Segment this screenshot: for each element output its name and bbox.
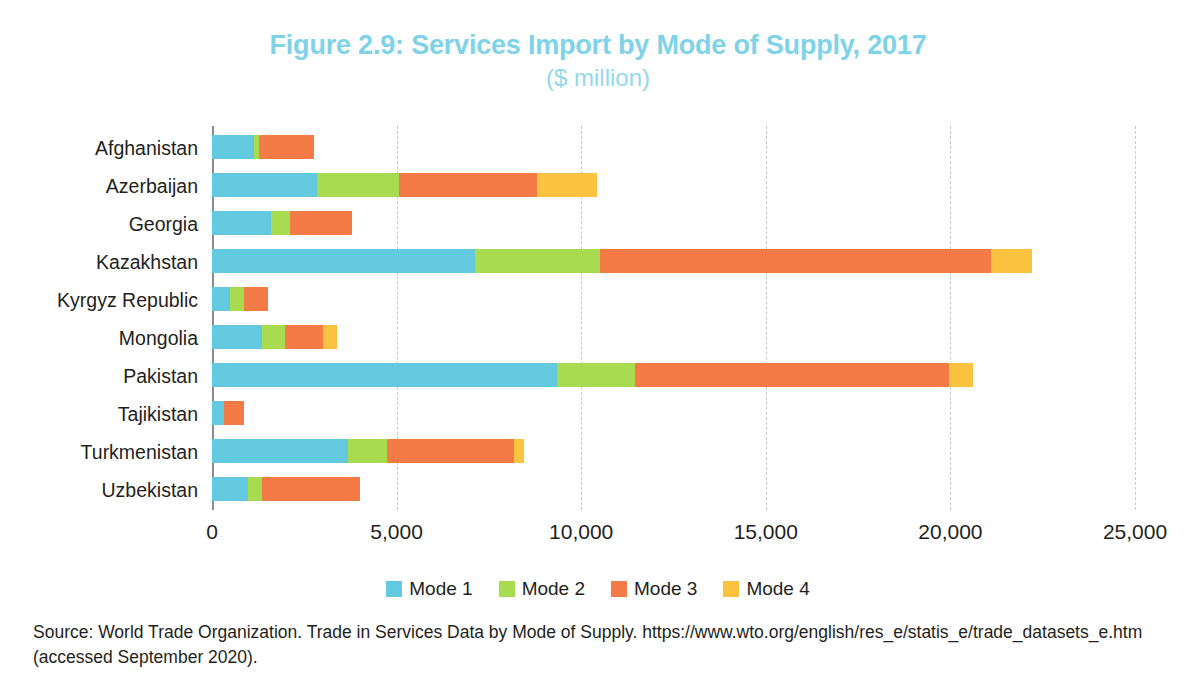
category-axis-labels: AfghanistanAzerbaijanGeorgiaKazakhstanKy… — [0, 126, 206, 510]
legend-item[interactable]: Mode 1 — [386, 578, 472, 600]
title-block: Figure 2.9: Services Import by Mode of S… — [0, 30, 1196, 93]
legend-swatch-icon — [723, 581, 739, 597]
category-label: Turkmenistan — [0, 443, 198, 463]
bar-segment — [475, 249, 600, 273]
bar-segment — [212, 211, 271, 235]
bar-segment — [537, 173, 597, 197]
bar-segment — [949, 363, 973, 387]
bar-segment — [212, 173, 317, 197]
bar-row — [212, 325, 337, 349]
value-tick-label: 0 — [206, 520, 218, 544]
category-label: Kyrgyz Republic — [0, 291, 198, 311]
bar-segment — [262, 477, 360, 501]
bar-segment — [557, 363, 635, 387]
value-tick-label: 20,000 — [918, 520, 982, 544]
bar-row — [212, 287, 268, 311]
category-label: Azerbaijan — [0, 177, 198, 197]
bar-row — [212, 401, 244, 425]
bar-segment — [635, 363, 949, 387]
legend-item[interactable]: Mode 2 — [499, 578, 585, 600]
category-label: Mongolia — [0, 329, 198, 349]
bars-group — [212, 126, 1196, 510]
bar-segment — [348, 439, 387, 463]
bar-segment — [323, 325, 337, 349]
value-tick-label: 5,000 — [370, 520, 423, 544]
bar-row — [212, 477, 360, 501]
bar-segment — [991, 249, 1032, 273]
source-note: Source: World Trade Organization. Trade … — [33, 620, 1173, 671]
category-label: Kazakhstan — [0, 253, 198, 273]
bar-segment — [317, 173, 399, 197]
legend-label: Mode 1 — [409, 578, 472, 600]
bar-segment — [271, 211, 290, 235]
category-label: Tajikistan — [0, 405, 198, 425]
legend-label: Mode 4 — [746, 578, 809, 600]
bar-segment — [399, 173, 537, 197]
bar-segment — [285, 325, 323, 349]
bar-row — [212, 211, 352, 235]
bar-row — [212, 249, 1032, 273]
legend-item[interactable]: Mode 4 — [723, 578, 809, 600]
bar-segment — [212, 477, 248, 501]
category-label: Uzbekistan — [0, 481, 198, 501]
category-label: Pakistan — [0, 367, 198, 387]
value-tick-label: 25,000 — [1103, 520, 1167, 544]
bar-segment — [212, 401, 224, 425]
bar-segment — [262, 325, 285, 349]
figure-subtitle: ($ million) — [0, 64, 1196, 93]
value-tick-label: 10,000 — [549, 520, 613, 544]
legend-swatch-icon — [499, 581, 515, 597]
bar-segment — [387, 439, 514, 463]
bar-segment — [230, 287, 244, 311]
bar-segment — [224, 401, 244, 425]
category-label: Georgia — [0, 215, 198, 235]
bar-segment — [290, 211, 352, 235]
legend-swatch-icon — [611, 581, 627, 597]
bar-row — [212, 363, 973, 387]
bar-segment — [212, 287, 230, 311]
figure-container: Figure 2.9: Services Import by Mode of S… — [0, 0, 1196, 689]
bar-segment — [212, 325, 262, 349]
bar-row — [212, 439, 524, 463]
bar-segment — [514, 439, 524, 463]
value-tick-label: 15,000 — [734, 520, 798, 544]
bar-segment — [259, 135, 314, 159]
bar-row — [212, 173, 597, 197]
figure-title: Figure 2.9: Services Import by Mode of S… — [0, 30, 1196, 62]
bar-segment — [212, 249, 475, 273]
legend-swatch-icon — [386, 581, 402, 597]
category-label: Afghanistan — [0, 139, 198, 159]
bar-segment — [600, 249, 991, 273]
plot-area: AfghanistanAzerbaijanGeorgiaKazakhstanKy… — [0, 126, 1196, 526]
legend-label: Mode 2 — [522, 578, 585, 600]
bar-segment — [212, 135, 254, 159]
value-axis-tick-labels: 05,00010,00015,00020,00025,000 — [0, 520, 1196, 550]
bar-segment — [212, 363, 557, 387]
legend-item[interactable]: Mode 3 — [611, 578, 697, 600]
chart-legend: Mode 1Mode 2Mode 3Mode 4 — [0, 578, 1196, 600]
bar-segment — [248, 477, 262, 501]
bar-segment — [212, 439, 348, 463]
legend-label: Mode 3 — [634, 578, 697, 600]
bar-segment — [244, 287, 268, 311]
bar-row — [212, 135, 314, 159]
